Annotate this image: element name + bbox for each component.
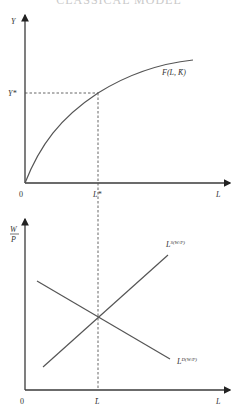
l-bar-label: L̄ [94, 397, 100, 406]
labor-market-panel: W P L 0 L̄ LS(W/P) LD(W/P) [10, 219, 230, 406]
diagram-canvas: Y L 0 Y* L* F(L, K̄) W P L 0 L̄ LS(W/P) … [0, 0, 238, 418]
bottom-x-axis-label: L [215, 397, 221, 406]
bottom-origin-label: 0 [20, 397, 24, 406]
production-function-panel: Y L 0 Y* L* F(L, K̄) [8, 15, 230, 199]
production-curve-label: F(L, K̄) [161, 68, 186, 77]
wage-axis-label-denominator: P [10, 235, 16, 244]
top-origin-label: 0 [19, 190, 23, 199]
top-x-axis-label: L [215, 190, 221, 199]
labor-demand-curve [37, 281, 170, 359]
l-star-label: L* [92, 190, 101, 199]
top-y-axis-label: Y [11, 17, 17, 26]
labor-demand-label: LD(W/P) [176, 357, 197, 366]
y-star-label: Y* [8, 89, 16, 98]
wage-axis-label-numerator: W [10, 225, 18, 234]
labor-supply-label: LS(W/P) [165, 240, 185, 249]
production-curve [25, 60, 193, 183]
labor-supply-curve [43, 255, 168, 367]
